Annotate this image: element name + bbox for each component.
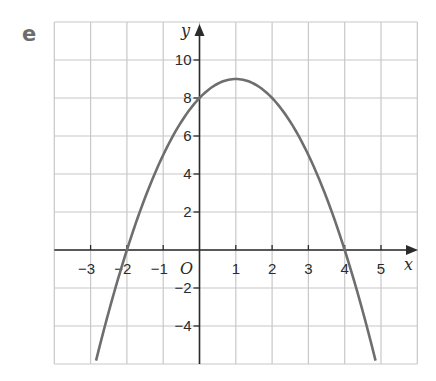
y-tick-label: 8	[183, 89, 191, 106]
x-axis-label: x	[404, 255, 413, 274]
origin-label: O	[180, 259, 193, 278]
x-tick-label: 1	[232, 260, 240, 277]
parabola-chart: −3−2−112345108642−2−4 x y O	[0, 0, 436, 381]
y-tick-label: 2	[183, 203, 191, 220]
y-axis-arrow-icon	[195, 24, 205, 36]
y-tick-label: 6	[183, 127, 191, 144]
x-axis-arrow-icon	[406, 245, 418, 255]
y-tick-label: 4	[183, 165, 191, 182]
y-axis-label: y	[180, 21, 191, 40]
x-tick-label: 2	[268, 260, 276, 277]
y-tick-label: −4	[174, 317, 191, 334]
x-tick-label: 5	[377, 260, 385, 277]
x-tick-label: −1	[151, 260, 168, 277]
y-tick-label: 10	[175, 51, 192, 68]
y-tick-label: −2	[174, 279, 191, 296]
x-tick-label: −3	[78, 260, 95, 277]
tick-labels: −3−2−112345108642−2−4	[78, 51, 385, 334]
x-tick-label: 3	[304, 260, 312, 277]
